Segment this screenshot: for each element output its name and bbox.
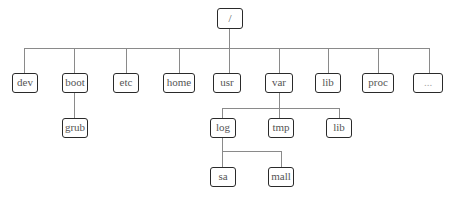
connector-to-log <box>222 108 223 118</box>
connector-to-home <box>179 48 180 73</box>
connector-level1-bar <box>24 48 429 49</box>
connector-to-boot <box>74 48 75 73</box>
node-home: home <box>163 73 195 93</box>
connector-boot-grub <box>74 93 75 118</box>
directory-tree-diagram: / dev boot etc home usr var lib proc ...… <box>0 0 455 199</box>
node-sa: sa <box>210 167 236 187</box>
node-log: log <box>210 118 236 138</box>
connector-to-mall <box>281 151 282 167</box>
node-var: var <box>265 73 293 93</box>
connector-to-usr <box>229 48 230 73</box>
connector-to-more <box>429 48 430 73</box>
node-grub: grub <box>62 118 88 138</box>
connector-log-down <box>222 137 223 167</box>
node-boot: boot <box>62 73 88 93</box>
node-usr: usr <box>213 73 241 93</box>
connector-var-bar <box>222 108 339 109</box>
node-dev: dev <box>12 73 38 93</box>
node-lib: lib <box>315 73 341 93</box>
node-mall: mall <box>268 167 294 187</box>
connector-log-bar <box>222 151 281 152</box>
connector-var-down <box>279 93 280 118</box>
node-tmp: tmp <box>268 118 294 138</box>
connector-to-dev <box>24 48 25 73</box>
node-etc: etc <box>113 73 139 93</box>
connector-to-etc <box>126 48 127 73</box>
connector-to-proc <box>378 48 379 73</box>
node-root: / <box>217 8 243 29</box>
connector-root-down <box>229 28 230 48</box>
connector-to-lib <box>328 48 329 73</box>
node-proc: proc <box>362 73 394 93</box>
node-more: ... <box>413 73 443 93</box>
node-var-lib: lib <box>326 118 352 138</box>
connector-to-var <box>279 48 280 73</box>
connector-to-var-lib <box>339 108 340 118</box>
